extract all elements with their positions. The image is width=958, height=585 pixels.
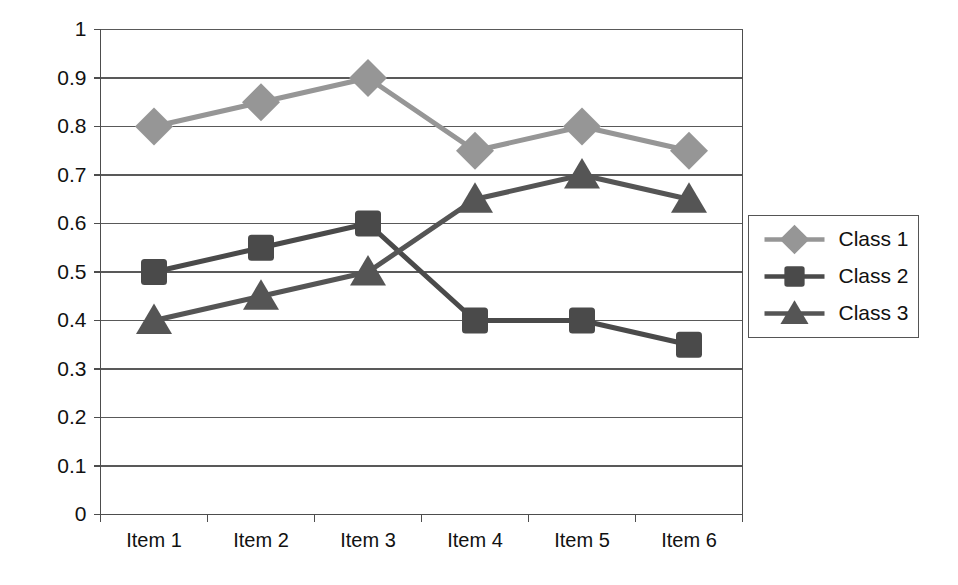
series-lines	[135, 59, 708, 358]
data-point-marker	[462, 308, 488, 334]
data-point-marker	[564, 158, 600, 189]
x-tick-label: Item 1	[126, 529, 182, 551]
data-markers	[141, 211, 702, 358]
data-point-marker	[248, 235, 274, 261]
chart-legend: Class 1Class 2Class 3	[749, 216, 919, 338]
y-tick-label: 0	[75, 502, 87, 525]
data-point-marker	[135, 108, 173, 146]
data-point-marker	[355, 211, 381, 237]
data-point-marker	[563, 108, 601, 146]
data-series	[154, 78, 689, 151]
y-tick-label: 0.4	[57, 308, 87, 331]
x-tick-label: Item 2	[233, 529, 289, 551]
series-line	[154, 78, 689, 151]
series-line	[154, 175, 689, 321]
y-tick-labels: 00.10.20.30.40.50.60.70.80.91	[57, 17, 87, 525]
data-point-marker	[569, 308, 595, 334]
y-tick-label: 0.7	[57, 163, 86, 186]
chart-canvas: 00.10.20.30.40.50.60.70.80.91 Item 1Item…	[0, 0, 958, 585]
y-tick-label: 0.1	[57, 454, 86, 477]
legend-item-label: Class 1	[839, 227, 909, 250]
x-tick-labels: Item 1Item 2Item 3Item 4Item 5Item 6	[126, 529, 717, 551]
series-line	[154, 224, 689, 345]
y-tick-label: 0.3	[57, 357, 86, 380]
data-point-marker	[350, 255, 386, 286]
legend-item-label: Class 3	[839, 301, 909, 324]
y-tick-label: 1	[75, 17, 87, 40]
data-point-marker	[242, 83, 280, 121]
x-axis	[101, 515, 743, 522]
y-tick-label: 0.5	[57, 260, 86, 283]
line-chart: 00.10.20.30.40.50.60.70.80.91 Item 1Item…	[0, 0, 958, 585]
data-point-marker	[349, 59, 387, 97]
x-tick-label: Item 6	[661, 529, 717, 551]
data-series	[154, 224, 689, 345]
data-point-marker	[676, 332, 702, 358]
legend-marker-swatch	[784, 266, 804, 286]
y-tick-label: 0.8	[57, 114, 86, 137]
x-tick-label: Item 4	[447, 529, 503, 551]
data-point-marker	[141, 259, 167, 285]
y-axis	[94, 30, 101, 515]
x-tick-label: Item 3	[340, 529, 396, 551]
y-tick-label: 0.2	[57, 405, 86, 428]
x-tick-label: Item 5	[554, 529, 610, 551]
legend-item-label: Class 2	[839, 264, 909, 287]
data-point-marker	[670, 132, 708, 170]
data-point-marker	[456, 132, 494, 170]
y-tick-label: 0.9	[57, 66, 86, 89]
y-tick-label: 0.6	[57, 211, 86, 234]
data-series	[154, 175, 689, 321]
